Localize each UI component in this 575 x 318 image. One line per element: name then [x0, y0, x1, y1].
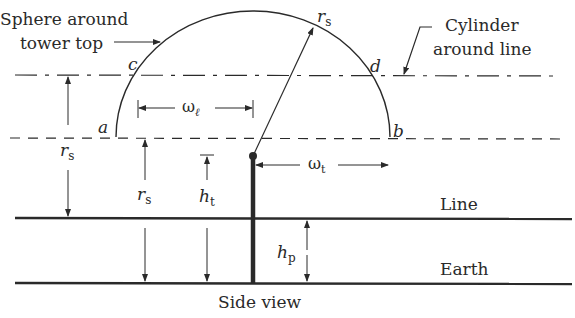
earth-line — [15, 283, 572, 284]
rs-left-label: rs — [60, 140, 74, 163]
lightning-shielding-diagram: Sphere around tower top Cylinder around … — [0, 0, 575, 318]
earth-label: Earth — [440, 259, 489, 279]
point-c: c — [128, 54, 138, 74]
cylinder-top-dashed-line — [15, 75, 560, 76]
hp-label: hp — [277, 242, 296, 265]
cylinder-label-line2: around line — [433, 39, 532, 59]
ht-label: ht — [199, 186, 215, 209]
sphere-arc — [116, 11, 390, 137]
point-d: d — [370, 56, 381, 76]
cylinder-pointer-arrow — [404, 27, 432, 74]
point-b: b — [393, 121, 404, 141]
rs-top-label: rs — [317, 6, 331, 29]
sphere-base-dashed-line — [10, 138, 565, 139]
omega-t-label: ωt — [308, 154, 326, 176]
sphere-label-line1: Sphere around — [0, 9, 129, 29]
line-conductor — [15, 218, 572, 219]
omega-l-label: ωℓ — [182, 97, 200, 119]
rs-radius-arrow — [253, 28, 313, 156]
cylinder-label-line1: Cylinder — [445, 15, 519, 35]
sphere-label-line2: tower top — [20, 33, 103, 53]
line-label: Line — [440, 194, 478, 214]
rs-mid-label: rs — [137, 184, 151, 207]
point-a: a — [98, 117, 108, 137]
caption-side-view: Side view — [218, 292, 302, 312]
